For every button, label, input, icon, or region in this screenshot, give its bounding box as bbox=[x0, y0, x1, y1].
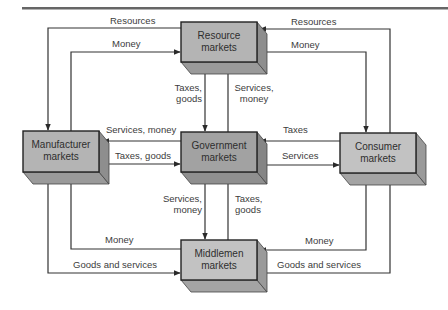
label-services-money-bottom: Services, money bbox=[158, 193, 202, 215]
label-services-money-top-l1: Services, bbox=[231, 82, 277, 93]
label-goods-services-bottom-left: Goods and services bbox=[73, 259, 157, 270]
label-money-left: Money bbox=[112, 38, 141, 49]
label-taxes-goods-left: Taxes, goods bbox=[115, 150, 171, 161]
label-taxes-goods-top: Taxes, goods bbox=[166, 82, 202, 104]
label-resources-right: Resources bbox=[291, 16, 336, 27]
label-resources-left: Resources bbox=[110, 15, 155, 26]
middlemen-markets-label: Middlemen markets bbox=[181, 248, 257, 272]
resource-line1: Resource bbox=[181, 30, 257, 42]
middlemen-line1: Middlemen bbox=[181, 248, 257, 260]
label-taxes-goods-bottom-l1: Taxes, bbox=[235, 193, 262, 204]
label-goods-services-bottom-right: Goods and services bbox=[277, 259, 361, 270]
label-services-right: Services bbox=[282, 150, 318, 161]
label-money-bottom-right: Money bbox=[305, 235, 334, 246]
top-rule bbox=[22, 7, 448, 10]
middlemen-line2: markets bbox=[181, 260, 257, 272]
label-taxes-goods-top-l1: Taxes, bbox=[166, 82, 202, 93]
manufacturer-markets-label: Manufacturer markets bbox=[23, 139, 99, 163]
government-line1: Government bbox=[181, 140, 257, 152]
label-taxes-goods-top-l2: goods bbox=[166, 93, 202, 104]
government-markets-label: Government markets bbox=[181, 140, 257, 164]
label-services-money-top-l2: money bbox=[231, 93, 277, 104]
resource-line2: markets bbox=[181, 42, 257, 54]
edge-resources-to-resource bbox=[260, 29, 390, 133]
consumer-markets-label: Consumer markets bbox=[340, 141, 416, 165]
label-services-money-bottom-l1: Services, bbox=[158, 193, 202, 204]
label-taxes-goods-bottom-l2: goods bbox=[235, 204, 262, 215]
label-taxes-right: Taxes bbox=[283, 124, 308, 135]
edge-money-to-resource bbox=[71, 52, 180, 131]
consumer-line2: markets bbox=[340, 153, 416, 165]
label-services-money-top: Services, money bbox=[231, 82, 277, 104]
label-money-bottom-left: Money bbox=[105, 234, 134, 245]
label-taxes-goods-bottom: Taxes, goods bbox=[235, 193, 262, 215]
label-services-money-left: Services, money bbox=[106, 124, 176, 135]
consumer-line1: Consumer bbox=[340, 141, 416, 153]
government-line2: markets bbox=[181, 152, 257, 164]
edge-goods-to-middlemen bbox=[48, 173, 180, 273]
label-services-money-bottom-l2: money bbox=[158, 204, 202, 215]
label-money-right: Money bbox=[291, 39, 320, 50]
resource-markets-label: Resource markets bbox=[181, 30, 257, 54]
manufacturer-line1: Manufacturer bbox=[23, 139, 99, 151]
manufacturer-line2: markets bbox=[23, 151, 99, 163]
